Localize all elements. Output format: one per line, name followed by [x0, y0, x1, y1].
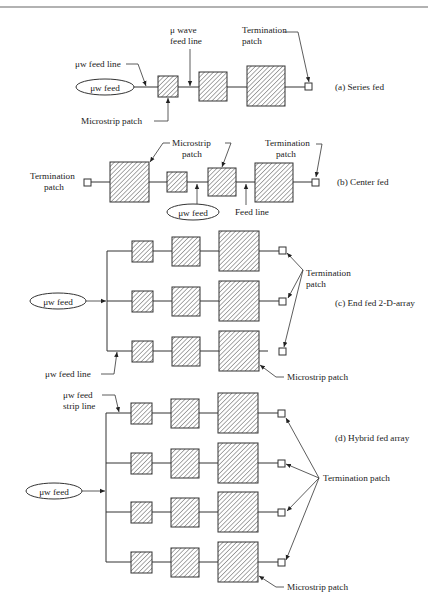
termination-left-label: patch	[44, 182, 64, 192]
section-c-end-fed-array: μw feed Termination patch (c) End fed 2-…	[30, 231, 415, 382]
microstrip-patch	[131, 502, 152, 523]
termination-right-label: patch	[276, 149, 296, 159]
microstrip-leader	[154, 98, 168, 121]
microstrip-patch	[171, 548, 199, 577]
microstrip-patch	[171, 399, 199, 428]
termination-leader	[284, 270, 303, 347]
microstrip-leader-right	[222, 143, 231, 167]
microstrip-patch	[208, 168, 236, 196]
strip-line-label: μw feed	[63, 390, 93, 400]
termination-patch	[279, 348, 286, 355]
microstrip-patch	[199, 72, 227, 101]
section-a-series-fed: μw feed μw feed line μ wave feed line Te…	[75, 25, 384, 126]
feed-line-leader	[101, 352, 117, 374]
microstrip-patch	[219, 331, 259, 371]
termination-patch	[84, 179, 91, 186]
microstrip-patch	[167, 172, 187, 192]
termination-leader	[286, 478, 319, 560]
termination-leader	[288, 270, 303, 298]
termination-right-label: Termination	[265, 138, 310, 148]
feed-line-label: μw feed line	[45, 369, 91, 379]
microstrip-patch	[171, 449, 199, 478]
microstrip-label: Microstrip patch	[287, 582, 348, 592]
termination-patch	[312, 179, 319, 186]
microstrip-patch	[218, 393, 258, 433]
section-d-caption: (d) Hybrid fed array	[335, 433, 410, 443]
microstrip-patch	[218, 542, 258, 582]
termination-leader	[287, 253, 303, 270]
uw-feed-label: μw feed	[178, 208, 208, 218]
microstrip-patch	[255, 163, 293, 202]
uw-feed-label: μw feed	[39, 487, 69, 497]
termination-right-leader	[316, 144, 322, 177]
termination-label: patch	[242, 36, 262, 46]
termination-label: patch	[306, 279, 326, 289]
termination-left-label: Termination	[30, 171, 75, 181]
microstrip-label: Microstrip	[172, 138, 211, 148]
termination-leader	[284, 32, 309, 82]
microstrip-patch	[172, 287, 200, 316]
microstrip-patch	[218, 443, 258, 483]
microstrip-patch	[132, 341, 153, 362]
microstrip-leader	[259, 576, 284, 587]
termination-patch	[278, 509, 285, 516]
microstrip-patch	[171, 498, 199, 527]
microstrip-label: Microstrip patch	[287, 372, 348, 382]
microstrip-patch	[218, 492, 258, 532]
microstrip-label: patch	[182, 149, 202, 159]
termination-label: Termination	[242, 25, 287, 35]
termination-label: Termination	[306, 268, 351, 278]
uw-feed-label: μw feed	[90, 83, 120, 93]
microstrip-patch	[110, 162, 149, 202]
microstrip-patch	[131, 552, 152, 573]
antenna-feed-diagram: μw feed μw feed line μ wave feed line Te…	[0, 0, 448, 613]
termination-patch	[278, 559, 285, 566]
termination-patch	[279, 247, 286, 254]
microstrip-leader-left	[150, 143, 170, 162]
uw-feed-label: μw feed	[43, 297, 73, 307]
termination-patch	[305, 83, 312, 90]
section-d-hybrid-fed-array: μw feed μw feed strip line (d) Hybrid fe…	[26, 390, 410, 592]
termination-patch	[279, 298, 286, 305]
termination-leader	[286, 418, 319, 478]
section-c-caption: (c) End fed 2-D-array	[335, 298, 415, 308]
microstrip-patch	[172, 237, 200, 266]
termination-patch	[278, 460, 285, 467]
microstrip-patch	[219, 281, 259, 321]
microstrip-label: Microstrip patch	[81, 116, 142, 126]
termination-leader	[286, 464, 319, 478]
strip-line-label: strip line	[63, 401, 95, 411]
section-a-caption: (a) Series fed	[335, 82, 384, 92]
microstrip-patch	[172, 337, 200, 366]
section-b-center-fed: Termination patch Microstrip patch Termi…	[30, 138, 389, 220]
wave-feed-line-label: μ wave	[170, 25, 197, 35]
strip-line-leader	[102, 395, 119, 412]
feed-line-label: Feed line	[235, 207, 269, 217]
microstrip-patch	[158, 76, 178, 97]
microstrip-patch	[219, 231, 259, 271]
microstrip-patch	[131, 403, 152, 424]
microstrip-patch	[132, 241, 153, 262]
microstrip-patch	[132, 291, 153, 312]
microstrip-leader	[260, 365, 284, 377]
wave-feed-line-label: feed line	[170, 36, 202, 46]
feed-line-label: μw feed line	[75, 59, 121, 69]
termination-label: Termination patch	[323, 473, 390, 483]
section-b-caption: (b) Center fed	[337, 177, 389, 187]
microstrip-patch	[247, 66, 285, 106]
microstrip-patch	[131, 453, 152, 474]
termination-patch	[278, 410, 285, 417]
termination-leader	[287, 478, 319, 511]
